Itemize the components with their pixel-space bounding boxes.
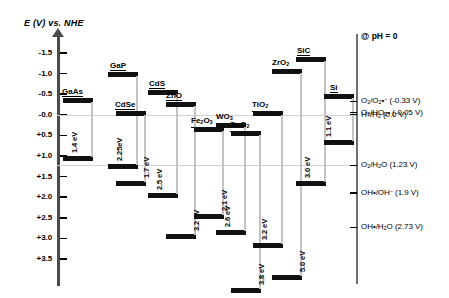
conduction-band-edge [231,131,261,136]
valence-band-edge [272,275,302,280]
band-gap-connector [281,115,283,244]
redox-tick [350,165,357,166]
y-axis-tick-label: -0.5 [20,89,52,98]
y-axis-tick [60,176,67,178]
band-gap-label: 2.25eV [115,138,124,161]
band-edge-diagram: E (V) vs. NHE -1.5-1.0-0.5-0.0+0.5+1.0+1… [0,0,449,298]
semiconductor-label: Si [330,83,338,93]
redox-tick [350,192,357,193]
y-axis-tick [60,238,67,240]
band-gap-label: 1.4 eV [70,132,79,153]
y-axis-tick [60,135,67,137]
conduction-band-edge [108,72,138,77]
y-axis-title: E (V) vs. NHE [24,18,84,28]
band-gap-label: 3.2 eV [260,218,269,239]
y-axis-tick-label: +1.0 [20,151,52,160]
y-axis-tick-label: +3.5 [20,254,52,263]
ph-condition-label: @ pH = 0 [361,31,397,41]
y-axis-tick [60,217,67,219]
semiconductor-label: SiC [297,46,310,56]
valence-band-edge [216,230,246,235]
semiconductor-label: ZnO [166,91,182,101]
redox-couple-label: H+/H2 (0.0 V) [361,110,407,119]
y-axis-tick-label: +2.0 [20,192,52,201]
valence-band-edge [194,214,224,219]
valence-band-edge [324,140,354,145]
redox-couple-label: O2/O2•− (-0.33 V) [361,96,420,105]
conduction-band-edge [63,98,93,103]
redox-couple-label: OH•/H2O (2.73 V) [361,222,423,231]
semiconductor-label: CdSe [115,100,135,110]
y-axis-tick [60,258,67,260]
redox-tick [350,101,357,102]
y-axis-tick-label: +3.0 [20,233,52,242]
y-axis-tick-label: +1.5 [20,172,52,181]
redox-tick [350,227,357,228]
conduction-band-edge [296,57,326,62]
band-gap-label: 3.0 eV [303,157,312,178]
semiconductor-label: GaAs [62,87,83,97]
redox-axis-line [356,34,358,284]
band-gap-connector [244,127,246,231]
valence-band-edge [166,234,196,239]
valence-band-edge [296,181,326,186]
valence-band-edge [63,156,93,161]
y-axis-tick [60,196,67,198]
valence-band-edge [253,243,283,248]
conduction-band-edge [272,69,302,74]
conduction-band-edge [253,111,283,116]
redox-couple-label: OH•/OH− (1.9 V) [361,188,419,197]
band-gap-connector [352,98,354,140]
y-axis-tick-label: -0.0 [20,110,52,119]
band-gap-label: 3.8 eV [257,264,266,285]
y-axis-tick [60,73,67,75]
conduction-band-edge [166,102,196,107]
valence-band-edge [108,164,138,169]
y-axis-tick-label: +0.5 [20,130,52,139]
band-gap-label: 2.6 eV [223,206,232,227]
band-gap-label: 5.0 eV [298,251,307,272]
band-gap-connector [300,73,302,276]
valence-band-edge [231,288,261,293]
redox-tick [350,114,357,115]
band-gap-label: 1.1 eV [324,115,333,136]
semiconductor-label: CdS [149,79,165,89]
valence-band-edge [148,193,178,198]
band-gap-connector [176,94,178,194]
redox-couple-label: O2/H2O (1.23 V) [361,160,417,169]
band-gap-label: 1.7 eV [142,157,151,178]
y-axis-line [57,34,60,286]
band-gap-label: 2.5 eV [155,169,164,190]
y-axis-tick-label: -1.0 [20,69,52,78]
y-axis-tick [60,52,67,54]
y-axis-tick-label: -1.5 [20,48,52,57]
y-axis-tick-label: +2.5 [20,213,52,222]
band-gap-connector [136,76,138,166]
conduction-band-edge [116,111,146,116]
conduction-band-edge [324,94,354,99]
semiconductor-label: GaP [110,61,126,71]
valence-band-edge [116,181,146,186]
band-gap-connector [91,102,93,157]
